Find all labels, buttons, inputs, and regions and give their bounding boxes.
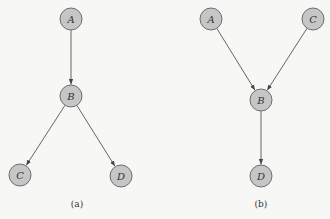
node-C: C [302,8,324,30]
subfigure-b: ACBD(b) [200,8,324,209]
node-A: A [200,8,222,30]
node-A: A [60,8,82,30]
subfigure-a: ABCD(a) [9,8,132,209]
node-C: C [9,164,31,186]
node-label: C [16,170,24,181]
graph-figure: ABCD(a) ACBD(b) [0,0,330,219]
node-B: B [60,85,82,107]
node-label: A [206,14,214,25]
node-label: D [256,171,265,182]
subfigure-caption: (b) [255,199,268,209]
node-label: B [256,95,264,106]
subfigure-caption: (a) [71,199,83,209]
edge-B-to-D [77,105,115,166]
node-B: B [250,89,272,111]
node-label: A [66,14,74,25]
node-label: B [66,91,74,102]
edge-B-to-C [26,105,65,165]
node-D: D [110,165,132,187]
node-label: C [309,14,317,25]
node-D: D [250,165,272,187]
edge-A-to-B [217,28,255,90]
node-label: D [116,171,125,182]
edge-C-to-B [267,28,307,90]
